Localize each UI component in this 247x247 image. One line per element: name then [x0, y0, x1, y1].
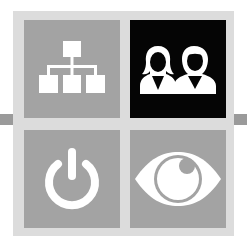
sitemap-icon: [39, 41, 105, 97]
tile-grid: [13, 11, 234, 236]
tile-view[interactable]: [130, 130, 226, 228]
connector-bar-left: [0, 114, 14, 125]
users-icon: [140, 44, 216, 94]
tile-power[interactable]: [24, 130, 120, 228]
power-icon: [42, 148, 102, 210]
eye-icon: [135, 152, 221, 206]
connector-bar-right: [234, 114, 247, 125]
tile-users[interactable]: [130, 20, 226, 118]
tile-hierarchy[interactable]: [24, 20, 120, 118]
